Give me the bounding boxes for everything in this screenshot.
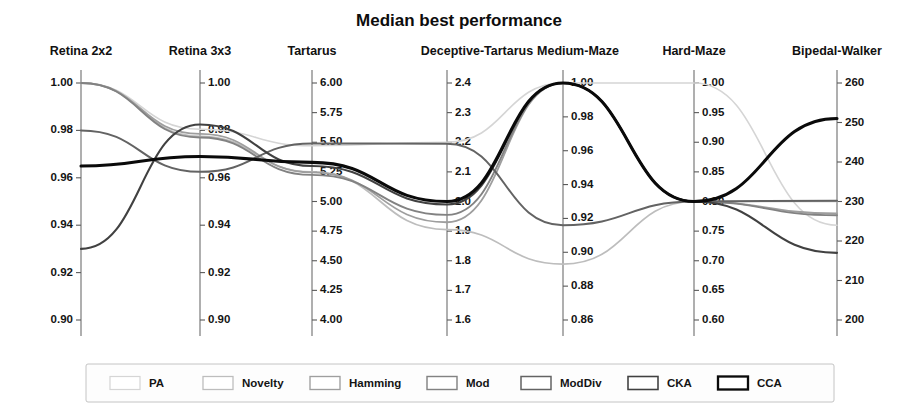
axis-tick-label: 0.98 bbox=[571, 110, 594, 122]
axis-tick-label: 1.00 bbox=[208, 76, 230, 88]
axis-tick-label: 0.96 bbox=[208, 171, 230, 183]
axis-tick-label: 0.86 bbox=[571, 313, 593, 325]
axis-tick-label: 2.1 bbox=[455, 165, 472, 177]
axis-tick-label: 0.90 bbox=[51, 313, 73, 325]
legend-swatch-moddiv bbox=[521, 377, 551, 390]
legend-item-hamming[interactable]: Hamming bbox=[310, 377, 401, 390]
axis-tick-label: 0.75 bbox=[702, 224, 725, 236]
axis-title-medium-maze: Medium-Maze bbox=[537, 44, 619, 58]
axis-tick-label: 0.70 bbox=[702, 254, 724, 266]
legend-item-moddiv[interactable]: ModDiv bbox=[521, 377, 602, 390]
legend-label-cca: CCA bbox=[757, 377, 782, 389]
axis-tick-label: 0.85 bbox=[702, 165, 725, 177]
axis-tick-label: 1.7 bbox=[455, 283, 471, 295]
chart-legend[interactable]: PANoveltyHammingModModDivCKACCA bbox=[86, 364, 834, 402]
axis-tick-label: 2.3 bbox=[455, 106, 471, 118]
chart-title: Median best performance bbox=[356, 11, 562, 30]
axis-tick-label: 0.94 bbox=[208, 218, 231, 230]
legend-swatch-cca bbox=[718, 377, 748, 390]
axis-tick-label: 1.00 bbox=[51, 76, 73, 88]
legend-item-pa[interactable]: PA bbox=[110, 377, 164, 390]
legend-label-mod: Mod bbox=[466, 377, 490, 389]
axis-title-tartarus: Tartarus bbox=[287, 44, 336, 58]
axis-tick-label: 2.4 bbox=[455, 76, 472, 88]
axis-title-retina-3x3: Retina 3x3 bbox=[169, 44, 232, 58]
axis-tick-label: 0.95 bbox=[702, 106, 725, 118]
axis-tick-label: 0.96 bbox=[571, 144, 593, 156]
axis-tick-label: 0.90 bbox=[702, 135, 724, 147]
axis-tick-label: 4.75 bbox=[320, 224, 343, 236]
axis-tick-label: 1.8 bbox=[455, 254, 472, 266]
legend-label-novelty: Novelty bbox=[242, 377, 284, 389]
legend-label-cka: CKA bbox=[667, 377, 692, 389]
legend-swatch-novelty bbox=[203, 377, 233, 390]
axis-tick-label: 0.88 bbox=[571, 279, 594, 291]
legend-label-pa: PA bbox=[149, 377, 164, 389]
axis-tick-label: 0.60 bbox=[702, 313, 724, 325]
axis-tick-label: 0.92 bbox=[51, 266, 73, 278]
legend-label-moddiv: ModDiv bbox=[560, 377, 602, 389]
axis-tick-label: 4.25 bbox=[320, 283, 343, 295]
legend-item-novelty[interactable]: Novelty bbox=[203, 377, 284, 390]
parallel-coordinates-chart: Median best performance Retina 2x2Retina… bbox=[0, 0, 918, 416]
axis-tick-label: 230 bbox=[845, 195, 864, 207]
legend-label-hamming: Hamming bbox=[349, 377, 401, 389]
axis-tick-label: 210 bbox=[845, 274, 864, 286]
axis-tick-label: 5.75 bbox=[320, 106, 343, 118]
legend-swatch-cka bbox=[628, 377, 658, 390]
axis-tick-label: 5.00 bbox=[320, 195, 342, 207]
axis-tick-label: 200 bbox=[845, 313, 864, 325]
axis-tick-label: 0.94 bbox=[571, 178, 594, 190]
axis-tick-label: 0.92 bbox=[571, 211, 593, 223]
axis-title-retina-2x2: Retina 2x2 bbox=[50, 44, 113, 58]
axis-tick-label: 250 bbox=[845, 116, 864, 128]
axis-tick-label: 240 bbox=[845, 155, 864, 167]
axis-tick-label: 4.50 bbox=[320, 254, 342, 266]
axis-title-hard-maze: Hard-Maze bbox=[662, 44, 725, 58]
axis-title-bipedal-walker: Bipedal-Walker bbox=[792, 44, 882, 58]
axis-tick-label: 0.90 bbox=[208, 313, 230, 325]
axis-tick-label: 1.6 bbox=[455, 313, 471, 325]
axis-tick-label: 6.00 bbox=[320, 76, 342, 88]
axis-tick-label: 0.65 bbox=[702, 283, 725, 295]
axis-tick-label: 0.92 bbox=[208, 266, 230, 278]
axis-tick-label: 0.94 bbox=[51, 218, 74, 230]
axis-tick-label: 0.96 bbox=[51, 171, 73, 183]
axis-tick-label: 220 bbox=[845, 234, 864, 246]
axis-titles-group: Retina 2x2Retina 3x3TartarusDeceptive-Ta… bbox=[50, 44, 882, 58]
axis-tick-label: 260 bbox=[845, 76, 864, 88]
chart-root: Median best performance Retina 2x2Retina… bbox=[0, 0, 918, 416]
axis-tick-label: 4.00 bbox=[320, 313, 342, 325]
axis-tick-label: 0.90 bbox=[571, 245, 593, 257]
legend-swatch-mod bbox=[427, 377, 457, 390]
axis-tick-label: 0.98 bbox=[51, 123, 74, 135]
legend-swatch-hamming bbox=[310, 377, 340, 390]
axis-title-deceptive-tartarus: Deceptive-Tartarus bbox=[421, 44, 533, 58]
legend-swatch-pa bbox=[110, 377, 140, 390]
